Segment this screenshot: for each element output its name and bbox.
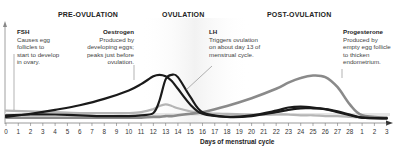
- x-tick-label: 25: [309, 128, 317, 135]
- x-axis-title: Days of menstrual cycle: [200, 138, 274, 145]
- x-tick-label: 2: [373, 128, 377, 135]
- x-tick-label: 23: [285, 128, 293, 135]
- progesterone-note: Progesterone Produced by empty egg folli…: [343, 28, 391, 66]
- oestrogen-line: developing eggs;: [87, 43, 134, 50]
- x-tick-label: 24: [297, 128, 305, 135]
- oestrogen-line: Produced by: [99, 36, 134, 43]
- lh-title: LH: [209, 28, 260, 36]
- x-tick-label: 16: [199, 128, 207, 135]
- x-tick-label: 9: [115, 128, 119, 135]
- x-tick-label: 1: [360, 128, 364, 135]
- lh-line: menstrual cycle.: [209, 51, 254, 58]
- oestrogen-line: peaks just before: [87, 51, 134, 58]
- lh-line: Triggers ovulation: [209, 36, 258, 43]
- progesterone-line: endometrium.: [343, 58, 381, 65]
- fsh-line: in ovary.: [17, 58, 40, 65]
- fsh-line: follicles to: [17, 43, 44, 50]
- lh-note: LH Triggers ovulation on about day 13 of…: [209, 28, 260, 58]
- x-tick-label: 10: [125, 128, 133, 135]
- phase-pre-ovulation: PRE-OVULATION: [58, 11, 118, 18]
- x-tick-label: 20: [248, 128, 256, 135]
- progesterone-line: Produced by: [343, 36, 378, 43]
- oestrogen-note: Oestrogen Produced by developing eggs; p…: [80, 28, 134, 66]
- x-tick-label: 15: [187, 128, 195, 135]
- fsh-line: start to develop: [17, 51, 59, 58]
- progesterone-line: empty egg follicle: [343, 43, 391, 50]
- x-tick-label: 1: [17, 128, 21, 135]
- oestrogen-title: Oestrogen: [80, 28, 134, 36]
- hormone-cycle-chart: 0123456789101112131415161718192021222324…: [0, 0, 397, 149]
- x-tick-label: 19: [236, 128, 244, 135]
- x-tick-label: 27: [334, 128, 342, 135]
- progesterone-title: Progesterone: [343, 28, 391, 36]
- x-tick-label: 18: [224, 128, 232, 135]
- x-tick-label: 5: [66, 128, 70, 135]
- x-tick-label: 28: [346, 128, 354, 135]
- x-tick-label: 12: [150, 128, 158, 135]
- y-axis-arrow-icon: [3, 21, 7, 27]
- x-axis-ticks: 0123456789101112131415161718192021222324…: [4, 123, 389, 135]
- x-tick-label: 21: [260, 128, 268, 135]
- phase-post-ovulation: POST-OVULATION: [267, 11, 332, 18]
- x-tick-label: 26: [322, 128, 330, 135]
- x-tick-label: 3: [385, 128, 389, 135]
- oestrogen-line: ovulation.: [108, 58, 135, 65]
- x-axis-arrow-icon: [386, 121, 393, 126]
- x-tick-label: 4: [53, 128, 57, 135]
- chart-plot-area: 0123456789101112131415161718192021222324…: [0, 0, 397, 149]
- x-tick-label: 13: [162, 128, 170, 135]
- x-tick-label: 6: [78, 128, 82, 135]
- lh-line: on about day 13 of: [209, 43, 260, 50]
- x-tick-label: 14: [174, 128, 182, 135]
- progesterone-line: to thicken: [343, 51, 369, 58]
- x-tick-label: 2: [29, 128, 33, 135]
- x-tick-label: 7: [90, 128, 94, 135]
- fsh-note: FSH Causes egg follicles to start to dev…: [17, 28, 59, 66]
- x-tick-label: 11: [138, 128, 145, 135]
- x-tick-label: 17: [211, 128, 219, 135]
- fsh-line: Causes egg: [17, 36, 50, 43]
- x-tick-label: 0: [4, 128, 8, 135]
- x-tick-label: 22: [273, 128, 281, 135]
- fsh-title: FSH: [17, 28, 59, 36]
- x-tick-label: 8: [102, 128, 106, 135]
- x-tick-label: 3: [41, 128, 45, 135]
- phase-ovulation: OVULATION: [162, 11, 205, 18]
